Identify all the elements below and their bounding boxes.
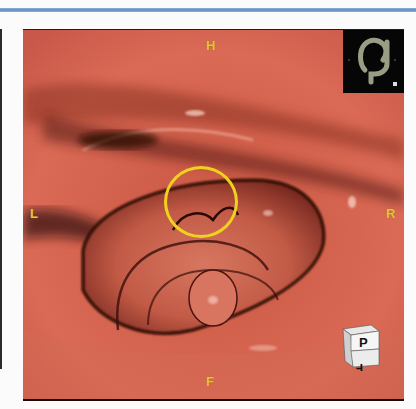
cube-face-bottom: F: [356, 361, 363, 371]
overview-thumbnail[interactable]: [343, 30, 404, 93]
lesion-annotation-circle[interactable]: [164, 166, 238, 238]
endoscopy-3d-viewport[interactable]: H F L R P F: [23, 29, 404, 401]
orientation-label-bottom: F: [206, 374, 214, 389]
orientation-label-left: L: [30, 206, 38, 221]
position-marker-icon: [393, 82, 397, 86]
cube-face-front: P: [359, 335, 368, 350]
orientation-label-right: R: [386, 206, 395, 221]
orientation-cube[interactable]: P F: [341, 323, 381, 371]
orientation-label-top: H: [206, 38, 215, 53]
colon-overview-map-icon: [343, 30, 404, 93]
adjacent-panel-edge: [0, 29, 2, 369]
header-rule: [0, 8, 416, 12]
